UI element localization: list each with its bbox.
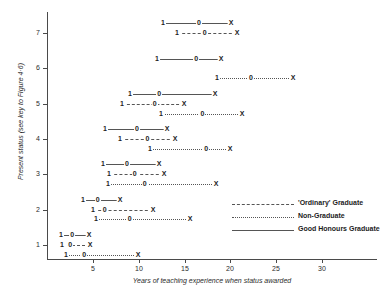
marker-median: 0 (152, 99, 158, 108)
marker-q3: X (234, 28, 241, 37)
series-range-line (83, 200, 120, 201)
series-row: 10X (93, 206, 153, 215)
series-row: 10X (150, 145, 230, 154)
x-tick-mark (185, 259, 186, 263)
marker-median: 0 (156, 89, 162, 98)
y-tick-mark (43, 139, 48, 140)
legend-line-sample-dotted (232, 217, 294, 218)
legend-item-label: 'Ordinary' Graduate (298, 199, 363, 206)
x-tick-mark (230, 259, 231, 263)
x-tick-label: 25 (266, 265, 286, 273)
marker-q1: 1 (102, 124, 108, 133)
marker-q1: 1 (59, 240, 65, 249)
marker-median: 0 (203, 144, 209, 153)
series-row: 10X (109, 170, 164, 179)
marker-q3: X (87, 240, 94, 249)
legend-item: Good Honours Graduate (232, 224, 374, 237)
y-tick-mark (43, 174, 48, 175)
series-row: 10X (108, 180, 216, 189)
y-axis-line (47, 12, 48, 260)
marker-q3: X (290, 73, 297, 82)
series-row: 10X (83, 196, 120, 205)
y-tick-label: 7 (28, 29, 40, 37)
series-range-line (96, 219, 190, 220)
series-range-line (217, 78, 293, 79)
y-tick-mark (43, 245, 48, 246)
series-row: 10X (157, 55, 221, 64)
marker-q1: 1 (154, 54, 160, 63)
marker-q1: 1 (80, 195, 86, 204)
marker-median: 0 (127, 214, 133, 223)
y-axis-title: Present status (see key to Figure 4·6) (17, 47, 24, 197)
y-tick-label: 1 (28, 241, 40, 249)
legend-item-label: Good Honours Graduate (298, 225, 380, 232)
marker-q1: 1 (106, 169, 112, 178)
marker-q1: 1 (58, 230, 64, 239)
marker-q1: 1 (93, 214, 99, 223)
marker-q3: X (212, 89, 219, 98)
legend-line-sample-solid (232, 230, 294, 231)
marker-q1: 1 (174, 28, 180, 37)
marker-q1: 1 (214, 73, 220, 82)
y-tick-label: 3 (28, 170, 40, 178)
legend-item: 'Ordinary' Graduate (232, 198, 374, 211)
series-row: 10X (120, 135, 175, 144)
y-tick-label: 4 (28, 135, 40, 143)
marker-q1: 1 (63, 250, 69, 259)
marker-median: 0 (124, 159, 130, 168)
series-row: 10X (217, 74, 293, 83)
marker-q1: 1 (100, 159, 106, 168)
marker-q1: 1 (90, 205, 96, 214)
x-tick-label: 15 (175, 265, 195, 273)
marker-q3: X (187, 214, 194, 223)
marker-median: 0 (196, 18, 202, 27)
y-tick-mark (43, 68, 48, 69)
x-tick-mark (139, 259, 140, 263)
series-row: 10X (105, 125, 167, 134)
series-row: 10X (122, 100, 184, 109)
y-tick-label: 2 (28, 206, 40, 214)
marker-q3: X (239, 109, 246, 118)
y-tick-mark (43, 210, 48, 211)
series-row: 10X (61, 231, 89, 240)
marker-median: 0 (145, 134, 151, 143)
marker-median: 0 (95, 195, 101, 204)
chart-legend: 'Ordinary' GraduateNon-GraduateGood Hono… (232, 198, 374, 237)
marker-median: 0 (199, 109, 205, 118)
marker-q3: X (227, 144, 234, 153)
x-tick-label: 20 (220, 265, 240, 273)
marker-median: 0 (102, 205, 108, 214)
marker-q3: X (228, 18, 235, 27)
marker-median: 0 (193, 54, 199, 63)
legend-item: Non-Graduate (232, 211, 374, 224)
series-row: 10X (130, 90, 215, 99)
marker-q3: X (218, 54, 225, 63)
marker-q3: X (156, 159, 163, 168)
marker-median: 0 (142, 179, 148, 188)
series-row: 10X (163, 19, 231, 28)
marker-q1: 1 (147, 144, 153, 153)
series-range-line (130, 94, 215, 95)
series-row: 10X (161, 110, 242, 119)
legend-line-sample-dashed (232, 204, 294, 205)
marker-q3: X (135, 250, 142, 259)
marker-median: 0 (132, 169, 138, 178)
series-range-line (103, 164, 159, 165)
marker-median: 0 (248, 73, 254, 82)
series-range-line (157, 59, 221, 60)
marker-q3: X (86, 230, 93, 239)
y-tick-mark (43, 33, 48, 34)
series-row: 10X (62, 241, 90, 250)
marker-q1: 1 (127, 89, 133, 98)
x-tick-label: 10 (129, 265, 149, 273)
y-tick-label: 6 (28, 64, 40, 72)
x-tick-label: 30 (312, 265, 332, 273)
marker-median: 0 (134, 124, 140, 133)
marker-median: 0 (202, 28, 208, 37)
marker-q3: X (150, 205, 157, 214)
x-tick-label: 5 (83, 265, 103, 273)
series-row: 10X (177, 29, 237, 38)
y-tick-mark (43, 104, 48, 105)
series-row: 10X (66, 251, 138, 260)
